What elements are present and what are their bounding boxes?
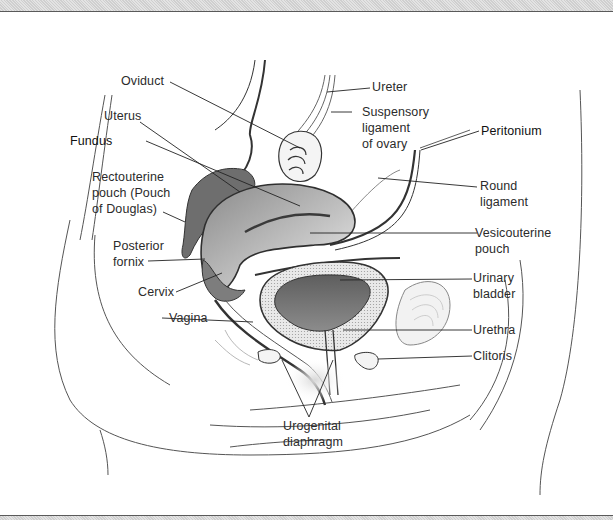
label-clitoris: Clitoris <box>473 348 512 364</box>
label-uterus: Uterus <box>104 108 141 124</box>
label-vesicouterine-pouch: Vesicouterine pouch <box>475 225 551 257</box>
label-fundus: Fundus <box>70 133 112 149</box>
label-cervix: Cervix <box>138 284 174 300</box>
label-urethra: Urethra <box>473 322 515 338</box>
label-round-ligament: Round ligament <box>480 178 528 210</box>
label-urinary-bladder: Urinary bladder <box>473 270 515 302</box>
ovary-oviduct <box>279 131 322 181</box>
clitoris-shape <box>355 352 378 369</box>
label-peritonium: Peritonium <box>481 123 542 139</box>
label-rectouterine-pouch: Rectouterine pouch (Pouch of Douglas) <box>92 169 170 217</box>
label-urogenital-diaphragm: Urogenital diaphragm <box>283 418 343 450</box>
label-vagina: Vagina <box>169 310 208 326</box>
label-oviduct: Oviduct <box>121 73 164 89</box>
anal-sphincter <box>258 350 280 364</box>
pubic-symphysis <box>396 282 450 345</box>
label-ureter: Ureter <box>372 79 407 95</box>
label-posterior-fornix: Posterior fornix <box>113 238 164 270</box>
label-suspensory-ligament: Suspensory ligament of ovary <box>362 104 429 152</box>
